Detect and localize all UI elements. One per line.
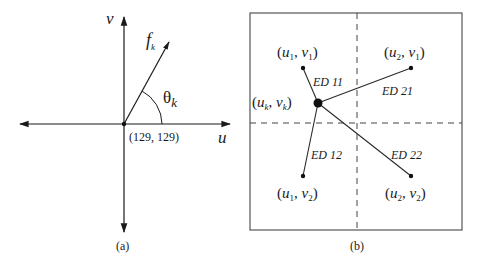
point-u2-v2 <box>409 174 413 178</box>
point-u1-v1 <box>301 66 305 70</box>
vector-fk <box>124 42 169 124</box>
label-u2-v2: (u2, v2) <box>385 185 426 203</box>
v-axis-label: v <box>106 9 114 28</box>
label-u2-v1: (u2, v1) <box>384 44 425 62</box>
origin-label: (129, 129) <box>129 130 179 144</box>
point-u1-v2 <box>301 174 305 178</box>
label-uk-vk: (uk, vk) <box>252 94 292 112</box>
angle-label: θk <box>163 88 177 110</box>
label-u1-v2: (u1, v2) <box>277 185 318 203</box>
point-uk-vk <box>314 99 323 108</box>
label-ed22: ED 22 <box>390 148 422 162</box>
vector-label: fk <box>146 30 156 52</box>
ed12-line <box>303 103 318 176</box>
caption-a: (a) <box>116 239 129 253</box>
ed22-line <box>318 103 411 176</box>
label-ed12: ED 12 <box>310 148 342 162</box>
theta-arc <box>142 91 162 124</box>
label-u1-v1: (u1, v1) <box>277 44 318 62</box>
origin-dot <box>122 122 126 126</box>
u-axis-label: u <box>218 128 227 147</box>
caption-b: (b) <box>350 239 364 253</box>
label-ed11: ED 11 <box>312 75 343 89</box>
panel-a: v u (129, 129) fk θk (a) <box>20 9 230 253</box>
figure: v u (129, 129) fk θk (a) (u1, v1) (u2, v… <box>0 0 481 267</box>
point-u2-v1 <box>409 66 413 70</box>
panel-b: (u1, v1) (u2, v1) (u1, v2) (u2, v2) (uk,… <box>250 13 462 253</box>
label-ed21: ED 21 <box>381 84 413 98</box>
